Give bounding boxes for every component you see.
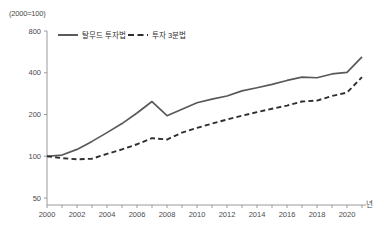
x-tick-label: 2012: [219, 210, 236, 219]
x-tick-label: 2008: [159, 210, 176, 219]
y-tick-label: 800: [28, 27, 41, 36]
series-line-2: [47, 77, 362, 159]
x-tick-label: 2018: [309, 210, 326, 219]
legend-label-1: 탈무드 투자법: [82, 30, 126, 40]
series-line-1: [47, 57, 362, 156]
x-tick-label: 2002: [69, 210, 86, 219]
legend-label-2: 투자 3분법: [152, 30, 186, 40]
y-axis: 50100200400800: [28, 27, 47, 205]
x-axis: 2000200220042006200820102012201420162018…: [39, 205, 366, 219]
x-tick-label: 2014: [249, 210, 266, 219]
chart-container: (2000=100) 년 50100200400800 200020022004…: [0, 0, 384, 231]
y-tick-label: 200: [28, 110, 41, 119]
line-chart-plot: 50100200400800 2000200220042006200820102…: [0, 0, 384, 231]
x-tick-label: 2000: [39, 210, 56, 219]
chart-legend: 탈무드 투자법투자 3분법: [58, 30, 186, 40]
x-tick-label: 2010: [189, 210, 206, 219]
x-tick-label: 2016: [279, 210, 296, 219]
y-tick-label: 50: [33, 194, 41, 203]
x-tick-label: 2020: [339, 210, 356, 219]
x-tick-label: 2006: [129, 210, 146, 219]
y-tick-label: 400: [28, 68, 41, 77]
y-tick-label: 100: [28, 152, 41, 161]
x-tick-label: 2004: [99, 210, 116, 219]
series-layer: [47, 57, 362, 159]
